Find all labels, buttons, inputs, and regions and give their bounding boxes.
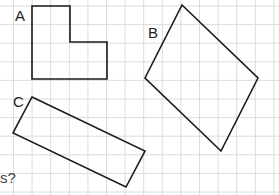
shape-b-label: B: [148, 24, 158, 41]
shape-c-label: C: [13, 93, 24, 110]
grid-diagram: A B C s?: [0, 0, 279, 195]
question-text-fragment: s?: [0, 169, 16, 186]
grid-lines: [0, 0, 279, 195]
shapes-group: [13, 5, 258, 187]
shape-a-label: A: [15, 7, 25, 24]
